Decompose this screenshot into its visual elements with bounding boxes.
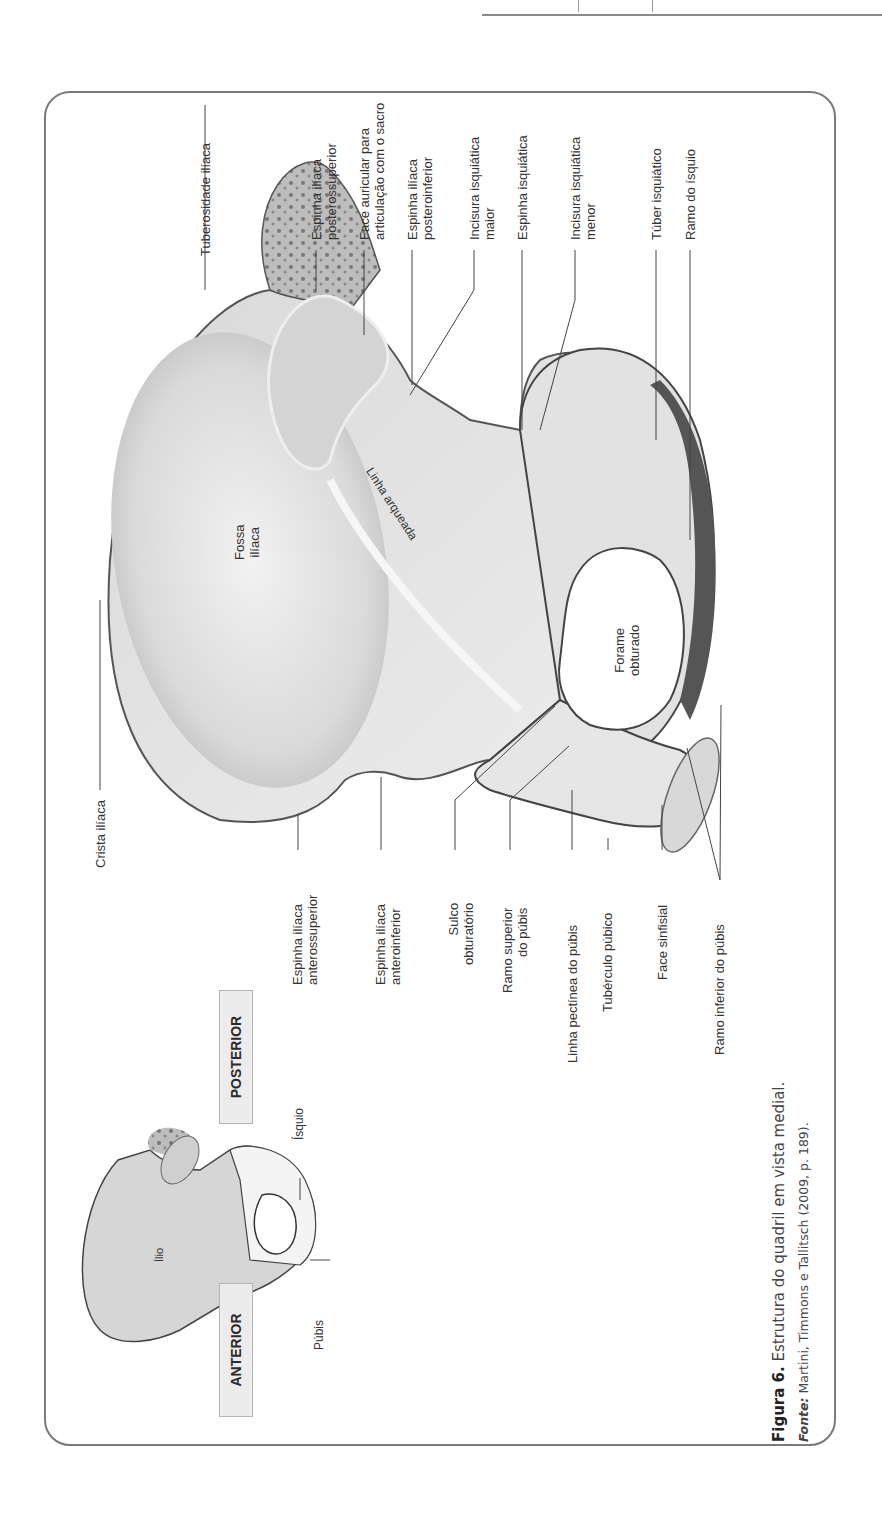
label-incisura-isquiatica-maior: Incisura isquiáticamaior <box>467 137 497 240</box>
label-ilio: Ílio <box>152 1248 167 1262</box>
label-espinha-iliaca-posteroinferior: Espinha ilíacaposteroinferior <box>405 157 435 240</box>
source-text: Martini, Timmons e Tallitsch (2009, p. 1… <box>796 1122 811 1393</box>
label-face-sinfisial: Face sinfisial <box>655 905 670 980</box>
label-espinha-isquiatica: Espinha isquiática <box>515 135 530 240</box>
figure-caption: Figura 6. Estrutura do quadril em vista … <box>770 1082 811 1442</box>
label-espinha-iliaca-anteroinferior: Espinha ilíacaanteroinferior <box>373 904 403 985</box>
label-sulco-obturatorio: Sulcoobturatório <box>446 903 476 965</box>
label-linha-pectinea-do-pubis: Linha pectínea do púbis <box>565 925 580 1063</box>
fossa-iliaca-label: Fossa ilíaca <box>232 525 262 560</box>
anterior-badge: ANTERIOR <box>219 1283 253 1417</box>
inset-hip-bone <box>82 1128 315 1342</box>
posterior-badge: POSTERIOR <box>219 990 253 1124</box>
label-tuber-isquiatico: Túber isquiático <box>649 148 664 240</box>
source-label: Fonte: <box>796 1397 811 1442</box>
hip-bone-illustration <box>0 0 882 1523</box>
figure-title: Estrutura do quadril em vista medial. <box>770 1082 788 1362</box>
label-crista-iliaca: Crista ilíaca <box>93 800 108 868</box>
label-ramo-inferior-do-pubis: Ramo inferior do púbis <box>712 924 727 1055</box>
label-ramo-do-isquio: Ramo do ísquio <box>683 149 698 240</box>
label-face-auricular: Face auricular paraarticulação com o sac… <box>357 103 387 240</box>
label-pubis: Púbis <box>312 1320 327 1350</box>
label-incisura-isquiatica-menor: Incisura isquiáticamenor <box>568 137 598 240</box>
label-ramo-superior-do-pubis: Ramo superiordo púbis <box>500 908 530 993</box>
figure-number: Figura 6. <box>770 1366 788 1442</box>
label-tuberosidade-iliaca: Tuberosidade ilíaca <box>198 143 213 256</box>
label-isquio: Ísquio <box>292 1108 307 1140</box>
label-espinha-iliaca-posterossuperior: Espinha ilíacaposterossuperior <box>309 143 339 240</box>
label-espinha-iliaca-anterossuperior: Espinha ilíacaanterossuperior <box>290 895 320 985</box>
label-tuberculo-pubico: Tubérculo púbico <box>600 913 615 1012</box>
forame-obturado-label: Forame obturado <box>612 625 642 676</box>
